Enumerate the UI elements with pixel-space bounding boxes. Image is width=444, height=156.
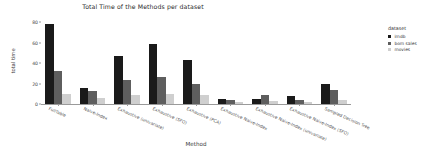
x-tick-label: Exhaustive (PCA) bbox=[186, 106, 222, 126]
bar-group bbox=[45, 18, 70, 104]
bar-group bbox=[114, 18, 139, 104]
bar bbox=[235, 102, 243, 104]
bar bbox=[88, 91, 96, 104]
bar-group bbox=[218, 18, 243, 104]
y-tick-label: 60 bbox=[32, 40, 41, 45]
bar bbox=[45, 24, 53, 104]
x-tick-mark bbox=[93, 104, 94, 106]
bar bbox=[330, 90, 338, 104]
bar bbox=[338, 100, 346, 104]
y-tick-label: 40 bbox=[32, 61, 41, 66]
x-tick-mark bbox=[58, 104, 59, 106]
bar-group bbox=[287, 18, 312, 104]
y-axis-label: total time bbox=[10, 48, 16, 73]
y-tick-label: 20 bbox=[32, 81, 41, 86]
bar-group bbox=[149, 18, 174, 104]
y-tick-label: 0 bbox=[35, 102, 41, 107]
x-tick-label: Exhaustive Naive-Index (SFO) bbox=[289, 106, 349, 137]
plot-area: 020406080 bbox=[41, 18, 351, 104]
bar bbox=[261, 95, 269, 104]
x-tick-mark bbox=[265, 104, 266, 106]
bar bbox=[218, 99, 226, 104]
x-tick-mark bbox=[127, 104, 128, 106]
legend-label: movies bbox=[394, 47, 410, 52]
x-axis-label: Method bbox=[186, 141, 207, 147]
bar bbox=[123, 80, 131, 104]
legend-item[interactable]: movies bbox=[388, 47, 442, 54]
bar bbox=[192, 84, 200, 104]
bar bbox=[183, 60, 191, 104]
bar bbox=[252, 99, 260, 104]
bar bbox=[166, 94, 174, 104]
x-tick-label: FullTable bbox=[48, 106, 67, 118]
bar bbox=[269, 101, 277, 104]
x-tick-label: Naive-Index bbox=[83, 106, 108, 121]
bar bbox=[200, 95, 208, 104]
bar bbox=[114, 56, 122, 104]
x-tick-mark bbox=[162, 104, 163, 106]
bar-group bbox=[183, 18, 208, 104]
bar bbox=[131, 95, 139, 104]
legend-swatch-icon bbox=[388, 48, 391, 51]
x-tick-mark bbox=[334, 104, 335, 106]
legend: dataset imdbbom salesmovies bbox=[388, 26, 442, 53]
bar-group bbox=[80, 18, 105, 104]
chart-title: Total Time of the Methods per dataset bbox=[38, 3, 248, 10]
bar bbox=[149, 44, 157, 104]
bar bbox=[62, 94, 70, 104]
x-tick-mark bbox=[230, 104, 231, 106]
chart-figure: Total Time of the Methods per dataset to… bbox=[0, 0, 444, 156]
bar-group bbox=[321, 18, 346, 104]
bar bbox=[287, 96, 295, 104]
legend-title: dataset bbox=[388, 26, 442, 31]
x-tick-mark bbox=[299, 104, 300, 106]
bar-group bbox=[252, 18, 277, 104]
legend-label: imdb bbox=[394, 34, 405, 39]
y-tick-label: 80 bbox=[32, 20, 41, 25]
legend-entries: imdbbom salesmovies bbox=[388, 34, 442, 54]
legend-label: bom sales bbox=[394, 41, 416, 46]
bar bbox=[54, 71, 62, 104]
legend-swatch-icon bbox=[388, 35, 391, 38]
legend-swatch-icon bbox=[388, 42, 391, 45]
bar bbox=[157, 77, 165, 104]
bar bbox=[321, 84, 329, 104]
bar bbox=[80, 88, 88, 104]
bar bbox=[304, 102, 312, 104]
x-tick-mark bbox=[196, 104, 197, 106]
bar bbox=[97, 98, 105, 104]
